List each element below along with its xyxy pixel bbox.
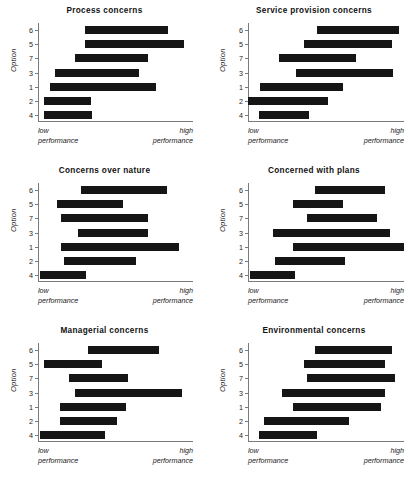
y-axis-line (248, 183, 249, 282)
y-axis-tick (245, 233, 248, 234)
y-tick-label: 1 (239, 242, 243, 251)
y-axis-title: Option (218, 48, 227, 72)
range-bar (317, 26, 400, 34)
chart-title: Concerns over nature (0, 166, 209, 175)
x-low-line1: low (38, 286, 78, 296)
x-high-line2: performance (364, 456, 404, 466)
y-axis-tick (245, 435, 248, 436)
x-low-line1: low (38, 126, 78, 136)
chart-grid: Process concerns Option 6573124 low perf… (0, 0, 419, 481)
chart-panel-managerial-concerns: Managerial concerns Option 6573124 low p… (0, 320, 209, 481)
y-tick-label: 4 (239, 270, 243, 279)
y-axis-tick (245, 261, 248, 262)
chart-panel-service-provision-concerns: Service provision concerns Option 657312… (209, 0, 419, 160)
y-tick-label: 7 (29, 54, 33, 63)
x-high-line2: performance (153, 136, 193, 146)
range-bar (40, 431, 105, 439)
plot-area: 6573124 (248, 23, 404, 122)
y-axis-tick (35, 407, 38, 408)
x-low-line1: low (38, 446, 78, 456)
plot-area: 6573124 (248, 343, 404, 442)
x-high-line1: high (153, 126, 193, 136)
x-axis-high-label: high performance (364, 126, 404, 145)
y-tick-label: 6 (29, 186, 33, 195)
y-tick-label: 3 (239, 68, 243, 77)
y-axis-line (248, 343, 249, 442)
range-bar (315, 186, 385, 194)
y-axis-tick (35, 233, 38, 234)
range-bar (275, 257, 345, 265)
y-axis-tick (245, 190, 248, 191)
range-bar (250, 271, 295, 279)
range-bar (282, 389, 385, 397)
y-axis-line (38, 23, 39, 122)
x-low-line1: low (248, 446, 288, 456)
y-tick-label: 4 (29, 110, 33, 119)
y-tick-label: 1 (239, 402, 243, 411)
x-axis-line (38, 121, 193, 122)
chart-title: Managerial concerns (0, 326, 209, 335)
range-bar (259, 431, 317, 439)
y-axis-tick (35, 378, 38, 379)
y-axis-tick (35, 247, 38, 248)
chart-panel-process-concerns: Process concerns Option 6573124 low perf… (0, 0, 209, 160)
y-axis-tick (35, 58, 38, 59)
range-bar (81, 186, 166, 194)
chart-title: Concerned with plans (209, 166, 419, 175)
x-high-line1: high (364, 286, 404, 296)
x-axis-high-label: high performance (153, 286, 193, 305)
y-axis-tick (35, 350, 38, 351)
chart-title: Process concerns (0, 6, 209, 15)
y-axis-tick (35, 421, 38, 422)
x-axis-low-label: low performance (38, 446, 78, 465)
y-tick-label: 4 (29, 270, 33, 279)
range-bar (60, 403, 127, 411)
range-bar (78, 229, 148, 237)
range-bar (296, 69, 393, 77)
x-high-line1: high (364, 446, 404, 456)
chart-panel-concerns-over-nature: Concerns over nature Option 6573124 low … (0, 160, 209, 320)
x-axis-line (248, 121, 404, 122)
y-axis-tick (245, 30, 248, 31)
y-axis-tick (245, 421, 248, 422)
range-bar (304, 40, 391, 48)
x-axis-low-label: low performance (38, 126, 78, 145)
y-axis-tick (245, 204, 248, 205)
y-tick-label: 2 (239, 96, 243, 105)
range-bar (260, 83, 343, 91)
range-bar (293, 243, 404, 251)
x-high-line1: high (153, 446, 193, 456)
x-axis-line (248, 441, 404, 442)
x-low-line2: performance (38, 136, 78, 146)
range-bar (304, 360, 385, 368)
y-tick-label: 6 (239, 26, 243, 35)
x-axis-low-label: low performance (248, 126, 288, 145)
y-axis-tick (35, 101, 38, 102)
y-axis-tick (35, 218, 38, 219)
y-tick-label: 2 (29, 96, 33, 105)
y-tick-label: 7 (29, 214, 33, 223)
range-bar (307, 374, 394, 382)
range-bar (44, 97, 91, 105)
y-tick-label: 7 (239, 374, 243, 383)
y-axis-tick (245, 393, 248, 394)
y-axis-tick (245, 247, 248, 248)
y-axis-title: Option (9, 208, 18, 232)
range-bar (264, 417, 350, 425)
range-bar (279, 54, 355, 62)
x-axis-line (38, 281, 193, 282)
y-axis-title: Option (9, 368, 18, 392)
y-axis-tick (245, 407, 248, 408)
y-axis-tick (245, 218, 248, 219)
x-axis-high-label: high performance (153, 446, 193, 465)
y-axis-tick (35, 73, 38, 74)
x-axis-high-label: high performance (364, 446, 404, 465)
y-axis-title: Option (218, 208, 227, 232)
y-tick-label: 1 (29, 242, 33, 251)
range-bar (60, 417, 117, 425)
x-axis-low-label: low performance (248, 286, 288, 305)
y-axis-tick (35, 87, 38, 88)
y-axis-tick (245, 58, 248, 59)
chart-title: Environmental concerns (209, 326, 419, 335)
x-low-line2: performance (248, 456, 288, 466)
